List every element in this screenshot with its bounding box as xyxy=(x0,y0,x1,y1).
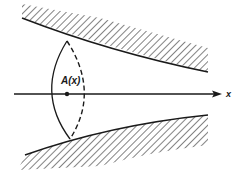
area-label: A(x) xyxy=(60,75,81,86)
axis-label: x xyxy=(225,89,232,99)
cross-section-back-arc xyxy=(67,41,84,139)
center-point xyxy=(65,92,69,96)
upper-wall-hatch xyxy=(22,4,208,72)
lower-wall-hatch xyxy=(18,115,208,170)
cross-section-front-arc xyxy=(52,41,70,139)
diagram-canvas: A(x) x xyxy=(0,0,246,181)
